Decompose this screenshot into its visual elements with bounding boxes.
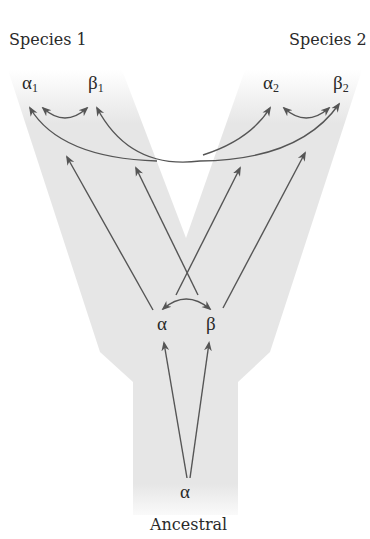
duplicated-alpha-label: α — [157, 313, 167, 335]
ancestral-label: Ancestral — [150, 515, 227, 534]
alpha-symbol: α — [22, 72, 32, 93]
subscript: 2 — [343, 81, 349, 95]
species1-label: Species 1 — [9, 30, 87, 49]
species-tree-shape — [8, 70, 362, 515]
alpha2-label: α2 — [263, 72, 279, 96]
subscript: 2 — [273, 81, 279, 95]
beta-symbol: β — [88, 72, 98, 93]
alpha1-label: α1 — [22, 72, 38, 96]
alpha-symbol: α — [263, 72, 273, 93]
beta1-label: β1 — [88, 72, 104, 96]
subscript: 1 — [32, 81, 38, 95]
gene-tree-diagram — [0, 0, 370, 539]
ancestral-alpha-label: α — [180, 481, 190, 503]
species2-label: Species 2 — [289, 30, 367, 49]
subscript: 1 — [98, 81, 104, 95]
beta2-label: β2 — [333, 72, 349, 96]
duplicated-beta-label: β — [206, 313, 216, 335]
beta-symbol: β — [333, 72, 343, 93]
